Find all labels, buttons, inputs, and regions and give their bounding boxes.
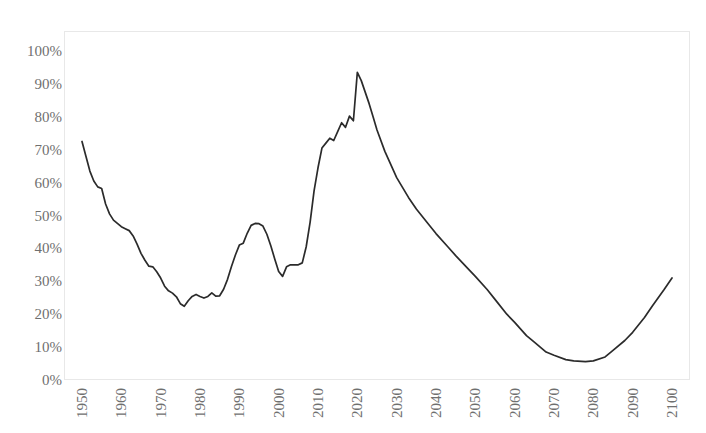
x-axis-tick-label: 2090 bbox=[626, 388, 641, 418]
x-axis-tick-label: 2010 bbox=[311, 388, 326, 418]
x-axis-tick-label: 1960 bbox=[114, 388, 129, 418]
x-axis-tick-label: 1970 bbox=[154, 388, 169, 418]
x-axis-tick-label: 1950 bbox=[75, 388, 90, 418]
x-axis-tick-label: 2100 bbox=[665, 388, 680, 418]
x-axis-tick-label: 2020 bbox=[350, 388, 365, 418]
chart-container: 100%90%80%70%60%50%40%30%20%10%0% 195019… bbox=[0, 0, 706, 433]
x-axis-tick-label: 1980 bbox=[193, 388, 208, 418]
x-axis-tick-label: 2000 bbox=[272, 388, 287, 418]
x-axis-tick-label: 2060 bbox=[508, 388, 523, 418]
x-axis-tick-label: 2050 bbox=[468, 388, 483, 418]
x-axis-tick-label: 2030 bbox=[390, 388, 405, 418]
x-axis: 1950196019701980199020002010202020302040… bbox=[0, 0, 706, 433]
x-axis-tick-label: 1990 bbox=[232, 388, 247, 418]
x-axis-tick-label: 2070 bbox=[547, 388, 562, 418]
x-axis-tick-label: 2080 bbox=[586, 388, 601, 418]
x-axis-tick-label: 2040 bbox=[429, 388, 444, 418]
